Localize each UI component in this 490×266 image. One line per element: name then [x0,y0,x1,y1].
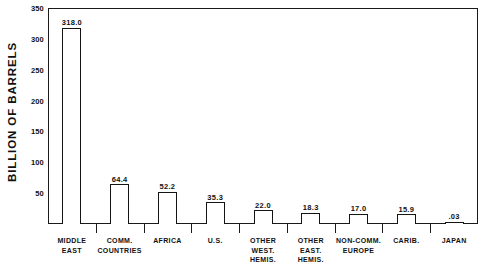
x-axis-category-line: HEMIS. [279,255,343,265]
x-axis-tick [430,224,431,233]
bar[interactable]: 18.3 [301,213,320,224]
x-axis-tick [239,224,240,233]
bar-value-label: 18.3 [303,203,319,212]
bar[interactable]: .03 [445,222,464,225]
x-axis-category-line: EUROPE [327,246,391,256]
x-axis-labels: MIDDLEEASTCOMM.COUNTRIESAFRICAU.S.OTHERW… [48,236,478,266]
y-axis-tick-label: 150 [20,127,44,136]
bars-layer: 318.064.452.235.322.018.317.015.9.03 [48,8,478,224]
bar-value-label: .03 [448,212,459,221]
y-axis-tick-label: 300 [20,34,44,43]
bar[interactable]: 22.0 [254,210,273,224]
x-axis-tick [96,224,97,233]
bar[interactable]: 35.3 [206,202,225,224]
x-axis-tick [144,224,145,233]
bar[interactable]: 17.0 [349,214,368,224]
y-axis-tick-label: 50 [20,189,44,198]
bar[interactable]: 64.4 [110,184,129,224]
x-axis-category-line: JAPAN [422,236,486,246]
x-axis-tick [287,224,288,233]
bar[interactable]: 318.0 [62,28,81,224]
y-axis-tick-label: 250 [20,65,44,74]
x-axis-tick [191,224,192,233]
y-axis-tick-label: 100 [20,158,44,167]
y-axis-tick-label: 200 [20,96,44,105]
bar-value-label: 22.0 [255,201,271,210]
y-axis-tick-label: 350 [20,4,44,13]
bar[interactable]: 15.9 [397,214,416,224]
x-axis-category-label: JAPAN [422,236,486,246]
y-axis-title-text: BILLION OF BARRELS [6,42,18,182]
x-axis-category-line: COUNTRIES [88,246,152,256]
bar[interactable]: 52.2 [158,192,177,224]
bar-value-label: 318.0 [62,18,82,27]
chart-screenshot: BILLION OF BARRELS 35030025020015010050 … [0,0,490,266]
bar-value-label: 52.2 [160,182,176,191]
x-axis-tick [382,224,383,233]
x-axis-tick [335,224,336,233]
bar-value-label: 64.4 [112,175,128,184]
bar-value-label: 35.3 [207,193,223,202]
bar-value-label: 15.9 [398,205,414,214]
bar-value-label: 17.0 [351,204,367,213]
